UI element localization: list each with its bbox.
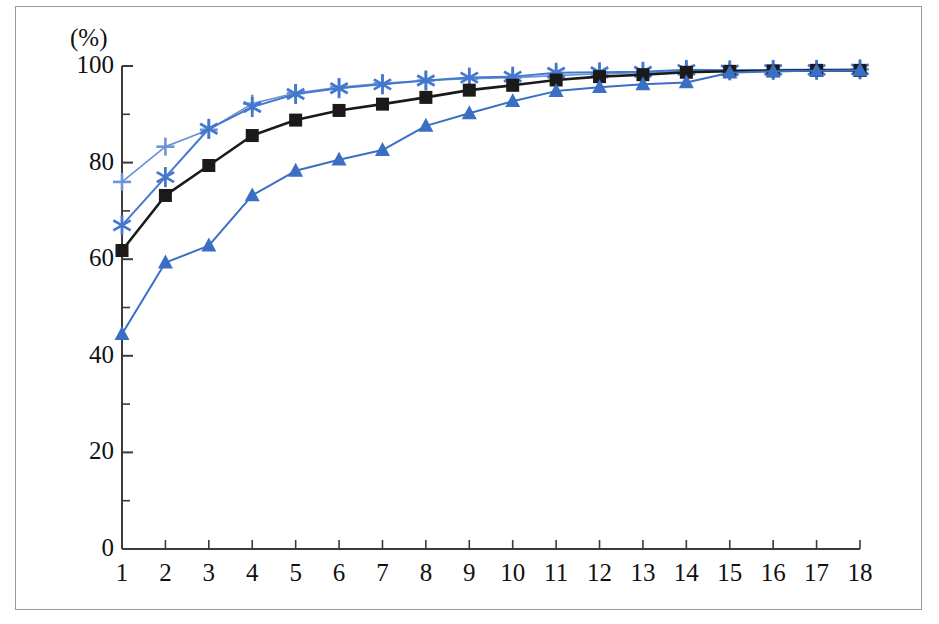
- x-tick-label: 16: [751, 560, 795, 585]
- x-tick-label: 15: [708, 560, 752, 585]
- x-tick-label: 7: [360, 560, 404, 585]
- marker-square: [506, 79, 519, 92]
- y-tick-label: 0: [40, 535, 114, 560]
- y-tick-label: 20: [40, 438, 114, 463]
- series-line: [122, 69, 860, 225]
- line-chart: [0, 0, 939, 624]
- x-tick-label: 14: [664, 560, 708, 585]
- marker-square: [376, 98, 389, 111]
- y-tick-label: 100: [40, 52, 114, 77]
- x-tick-label: 4: [230, 560, 274, 585]
- marker-square: [116, 244, 129, 257]
- axes: [122, 66, 860, 549]
- marker-triangle: [245, 187, 260, 201]
- y-tick-label: 80: [40, 149, 114, 174]
- x-tick-label: 2: [143, 560, 187, 585]
- x-tick-label: 18: [838, 560, 882, 585]
- x-tick-label: 3: [187, 560, 231, 585]
- marker-square: [333, 104, 346, 117]
- marker-square: [202, 159, 215, 172]
- y-tick-label: 60: [40, 245, 114, 270]
- x-tick-label: 5: [274, 560, 318, 585]
- series-layer: [113, 59, 869, 340]
- marker-triangle: [115, 326, 130, 340]
- marker-square: [159, 189, 172, 202]
- marker-square: [246, 129, 259, 142]
- marker-square: [419, 91, 432, 104]
- x-tick-label: 11: [534, 560, 578, 585]
- x-tick-label: 12: [578, 560, 622, 585]
- series-triangle: [115, 62, 868, 340]
- y-tick-label: 40: [40, 342, 114, 367]
- x-tick-label: 17: [795, 560, 839, 585]
- series-line: [122, 70, 860, 334]
- marker-square: [289, 114, 302, 127]
- x-tick-label: 10: [491, 560, 535, 585]
- x-tick-label: 1: [100, 560, 144, 585]
- marker-square: [463, 84, 476, 97]
- x-tick-label: 9: [447, 560, 491, 585]
- series-plus: [113, 60, 869, 191]
- series-square: [116, 64, 867, 257]
- x-tick-label: 6: [317, 560, 361, 585]
- series-line: [122, 69, 860, 182]
- x-tick-label: 8: [404, 560, 448, 585]
- series-line: [122, 70, 860, 250]
- marker-triangle: [375, 142, 390, 156]
- series-asterisk: [113, 59, 868, 235]
- x-tick-label: 13: [621, 560, 665, 585]
